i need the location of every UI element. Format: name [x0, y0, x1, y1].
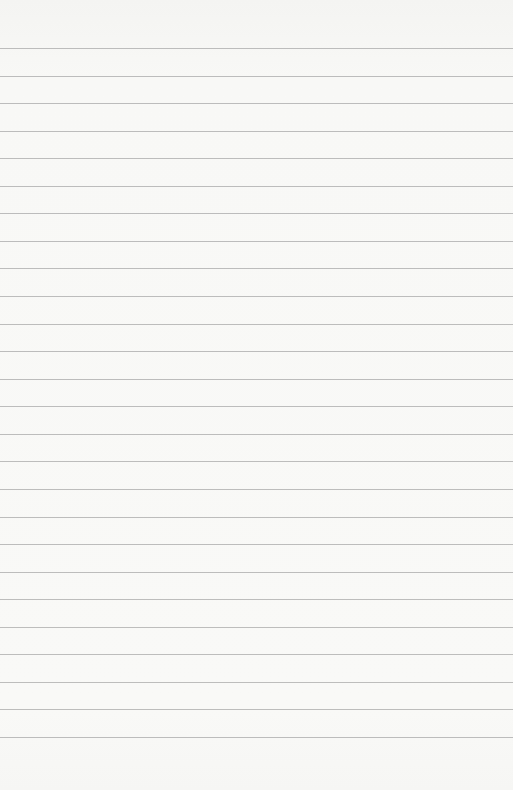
ruled-line — [0, 296, 513, 297]
ruled-line — [0, 268, 513, 269]
ruled-line — [0, 213, 513, 214]
ruled-line — [0, 241, 513, 242]
ruled-line — [0, 186, 513, 187]
ruled-line — [0, 654, 513, 655]
ruled-line — [0, 351, 513, 352]
ruled-line — [0, 737, 513, 738]
ruled-line — [0, 461, 513, 462]
ruled-line — [0, 48, 513, 49]
ruled-line — [0, 76, 513, 77]
ruled-line — [0, 131, 513, 132]
ruled-line — [0, 324, 513, 325]
ruled-line — [0, 489, 513, 490]
lined-paper — [0, 0, 513, 790]
ruled-line — [0, 103, 513, 104]
ruled-line — [0, 434, 513, 435]
ruled-line — [0, 158, 513, 159]
ruled-line — [0, 709, 513, 710]
ruled-line — [0, 572, 513, 573]
ruled-line — [0, 599, 513, 600]
ruled-line — [0, 544, 513, 545]
ruled-line — [0, 682, 513, 683]
ruled-line — [0, 517, 513, 518]
ruled-line — [0, 379, 513, 380]
ruled-line — [0, 406, 513, 407]
ruled-line — [0, 627, 513, 628]
